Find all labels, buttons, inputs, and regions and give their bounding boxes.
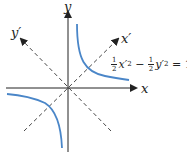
diagram-graphics (0, 0, 187, 159)
hyperbola-equation: 1 2 x′2 − 1 2 y′2 = 1 (111, 56, 187, 73)
fraction-one-half: 1 2 (111, 56, 117, 73)
hyperbola-rotated-axes-diagram: y x x′ y′ 1 2 x′2 − 1 2 y′2 = 1 (0, 0, 187, 159)
x-prime-axis (24, 39, 118, 131)
y-axis-label: y (64, 0, 71, 13)
y-prime-axis-label: y′ (11, 26, 21, 39)
x-prime-axis-label: x′ (121, 32, 131, 45)
fraction-one-half-2: 1 2 (148, 56, 154, 73)
x-axis-label: x (141, 82, 148, 95)
y-prime-axis (21, 39, 111, 131)
